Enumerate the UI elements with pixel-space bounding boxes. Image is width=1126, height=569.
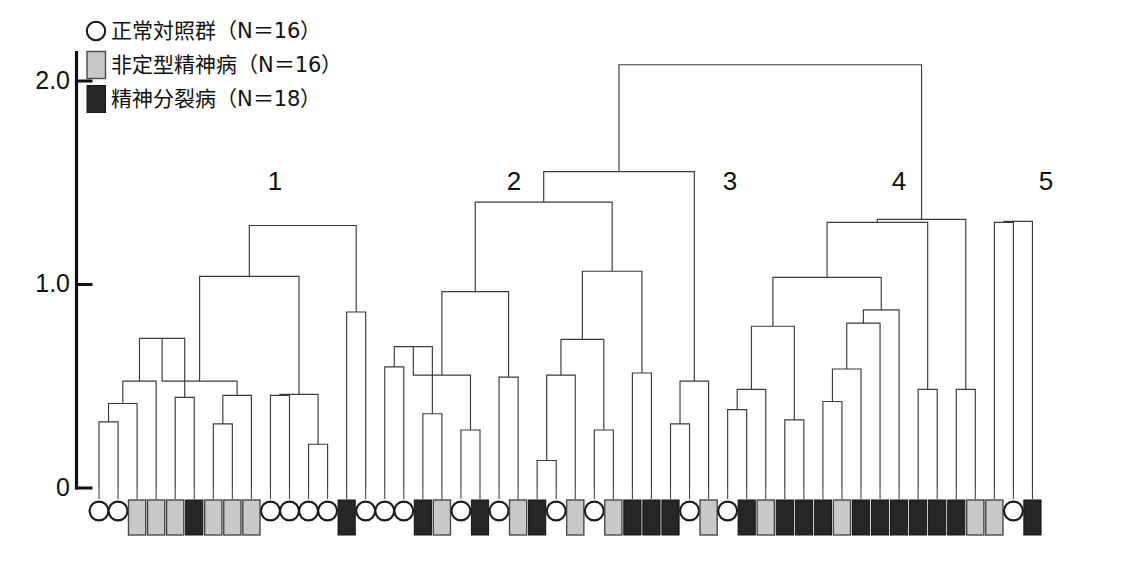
dendrogram-branch (994, 222, 1013, 488)
cluster-label-group: 12345 (268, 166, 1053, 196)
dendrogram-branch (877, 219, 965, 389)
dendrogram-branch (109, 404, 138, 488)
leaf-symbol-normal-control (299, 502, 318, 521)
dendrogram-branch (499, 377, 518, 488)
leaf-symbol-normal-control (680, 502, 699, 521)
cluster-number-label: 4 (892, 166, 906, 196)
leaf-symbol-atypical-psychosis (986, 500, 1003, 535)
dendrogram-branch (175, 397, 194, 488)
dendrogram-branch (442, 292, 509, 377)
cluster-number-label: 3 (723, 166, 737, 196)
leaf-symbol-schizophrenia (529, 500, 546, 535)
dendrogram-branch (832, 369, 861, 488)
leaf-symbol-schizophrenia (795, 500, 812, 535)
y-tick-label: 1.0 (35, 269, 70, 297)
dendrogram-branch (249, 225, 356, 311)
legend-swatch-normal-control (87, 22, 105, 40)
dendrogram-branch (823, 402, 842, 488)
leaf-symbol-normal-control (452, 502, 471, 521)
dendrogram-links (99, 65, 1032, 488)
dendrogram-branch (737, 389, 766, 488)
leaf-symbol-group (90, 500, 1041, 535)
leaf-symbol-atypical-psychosis (833, 500, 850, 535)
dendrogram-branch (619, 65, 922, 220)
dendrogram-branch (1004, 221, 1033, 488)
dendrogram-branch (827, 222, 928, 389)
dendrogram-branch (537, 461, 556, 488)
leaf-symbol-normal-control (490, 502, 509, 521)
dendrogram-branch (671, 424, 690, 488)
leaf-symbol-schizophrenia (624, 500, 641, 535)
leaf-symbol-normal-control (90, 502, 109, 521)
legend-label-normal-control: 正常対照群（N＝16） (111, 19, 321, 43)
dendrogram-branch (309, 444, 328, 488)
dendrogram-branch (200, 276, 299, 394)
dendrogram-branch (847, 323, 880, 488)
dendrogram-branch (213, 424, 232, 488)
dendrogram-branch (123, 381, 156, 488)
leaf-symbol-normal-control (394, 502, 413, 521)
dendrogram-branch (544, 172, 695, 382)
leaf-symbol-normal-control (318, 502, 337, 521)
dendrogram-branch (680, 381, 709, 488)
dendrogram-canvas: 01.02.0 12345 正常対照群（N＝16）非定型精神病（N＝16）精神分… (0, 0, 1126, 569)
leaf-symbol-schizophrenia (471, 500, 488, 535)
leaf-symbol-schizophrenia (871, 500, 888, 535)
legend-swatch-schizophrenia (87, 86, 106, 113)
leaf-symbol-atypical-psychosis (510, 500, 527, 535)
cluster-number-label: 5 (1039, 166, 1053, 196)
legend-swatch-atypical-psychosis (87, 52, 106, 79)
dendrogram-branch (632, 373, 651, 488)
dendrogram-branch (785, 420, 804, 488)
leaf-symbol-schizophrenia (891, 500, 908, 535)
dendrogram-branch (728, 410, 747, 488)
leaf-tick-group (99, 488, 1032, 499)
leaf-symbol-schizophrenia (414, 500, 431, 535)
dendrogram-branch (956, 389, 975, 488)
leaf-symbol-atypical-psychosis (167, 500, 184, 535)
dendrogram-branch (547, 375, 576, 488)
dendrogram-branch (385, 367, 404, 488)
dendrogram-branch (423, 414, 442, 488)
leaf-symbol-atypical-psychosis (967, 500, 984, 535)
leaf-symbol-schizophrenia (948, 500, 965, 535)
leaf-symbol-schizophrenia (738, 500, 755, 535)
leaf-symbol-atypical-psychosis (224, 500, 241, 535)
leaf-symbol-atypical-psychosis (243, 500, 260, 535)
leaf-symbol-normal-control (585, 502, 604, 521)
legend-label-atypical-psychosis: 非定型精神病（N＝16） (111, 53, 342, 77)
dendrogram-branch (582, 271, 642, 373)
leaf-symbol-schizophrenia (1024, 500, 1041, 535)
leaf-symbol-schizophrenia (338, 500, 355, 535)
leaf-symbol-schizophrenia (814, 500, 831, 535)
dendrogram-branch (594, 430, 613, 488)
leaf-symbol-atypical-psychosis (148, 500, 165, 535)
dendrogram-branch (99, 422, 118, 488)
leaf-symbol-normal-control (375, 502, 394, 521)
leaf-symbol-atypical-psychosis (757, 500, 774, 535)
leaf-symbol-normal-control (280, 502, 299, 521)
leaf-symbol-atypical-psychosis (567, 500, 584, 535)
dendrogram-branch (461, 430, 480, 488)
dendrogram-branch (918, 389, 937, 488)
dendrogram-branch (270, 395, 289, 488)
legend-group: 正常対照群（N＝16）非定型精神病（N＝16）精神分裂病（N＝18） (87, 19, 343, 113)
dendrogram-figure: 01.02.0 12345 正常対照群（N＝16）非定型精神病（N＝16）精神分… (0, 0, 1126, 569)
leaf-symbol-schizophrenia (662, 500, 679, 535)
leaf-symbol-schizophrenia (186, 500, 203, 535)
leaf-symbol-schizophrenia (852, 500, 869, 535)
leaf-symbol-atypical-psychosis (129, 500, 146, 535)
y-tick-label: 0 (56, 473, 70, 501)
leaf-symbol-schizophrenia (643, 500, 660, 535)
dendrogram-branch (561, 339, 604, 430)
dendrogram-branch (223, 395, 252, 488)
leaf-symbol-atypical-psychosis (433, 500, 450, 535)
cluster-number-label: 2 (507, 166, 521, 196)
legend-label-schizophrenia: 精神分裂病（N＝18） (111, 87, 321, 111)
dendrogram-branch (751, 326, 794, 420)
leaf-symbol-normal-control (718, 502, 737, 521)
leaf-symbol-atypical-psychosis (205, 500, 222, 535)
cluster-number-label: 1 (268, 166, 282, 196)
dendrogram-branch (347, 312, 366, 488)
leaf-symbol-schizophrenia (929, 500, 946, 535)
